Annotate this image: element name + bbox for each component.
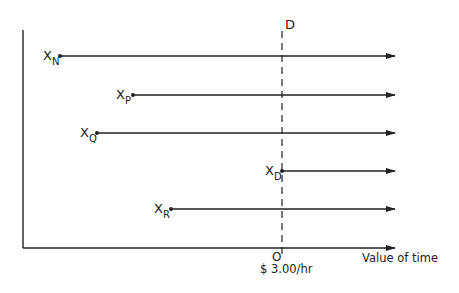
- ray-x-n: XN: [43, 48, 395, 67]
- ray-label: XR: [154, 201, 170, 220]
- ray-label: XQ: [80, 125, 97, 144]
- ray-start-dot: [131, 93, 135, 97]
- divider-label: D: [285, 17, 295, 32]
- ray-label: XP: [116, 87, 131, 106]
- origin-value-label: $ 3.00/hr: [260, 262, 313, 276]
- ray-x-p: XP: [116, 87, 395, 106]
- x-axis-label: Value of time: [362, 251, 438, 265]
- ray-x-q: XQ: [80, 125, 395, 144]
- ray-label: XD: [265, 163, 282, 182]
- ray-x-r: XR: [154, 201, 395, 220]
- ray-label: XN: [43, 48, 59, 67]
- ray-x-d: XD: [265, 163, 395, 182]
- value-of-time-diagram: D XN XP XQ XD XR O $ 3.00/hr Value of ti…: [0, 0, 459, 293]
